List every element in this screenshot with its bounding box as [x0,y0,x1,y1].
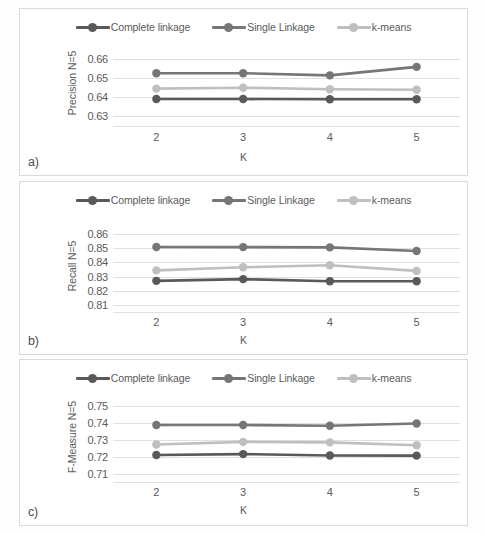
data-point-marker [412,86,420,94]
data-point-marker [412,267,420,275]
data-point-marker [239,275,247,283]
data-point-marker [239,243,247,251]
series-line [156,247,416,251]
data-point-marker [152,266,160,274]
series-line [156,265,416,271]
data-point-marker [412,441,420,449]
plot-area-fmeasure: F-Measure N=50.750.740.730.720.712345K [20,360,467,525]
data-point-marker [152,421,160,429]
panel-tag-a: a) [28,155,39,169]
data-point-marker [239,69,247,77]
data-point-marker [152,84,160,92]
plot-area-recall: Recall N=50.860.850.840.830.820.812345K [20,182,467,354]
series-layer [20,182,467,354]
data-point-marker [412,247,420,255]
data-point-marker [412,419,420,427]
series-line [156,67,416,75]
data-point-marker [152,243,160,251]
data-point-marker [326,438,334,446]
chart-panel-recall: Complete linkageSingle Linkagek-means Re… [19,181,468,355]
data-point-marker [239,421,247,429]
data-point-marker [326,261,334,269]
data-point-marker [239,95,247,103]
data-point-marker [239,83,247,91]
data-point-marker [239,438,247,446]
figure-root: Complete linkageSingle Linkagek-means Pr… [0,0,485,534]
data-point-marker [326,422,334,430]
series-layer [20,360,467,525]
data-point-marker [412,451,420,459]
data-point-marker [412,63,420,71]
data-point-marker [326,71,334,79]
panel-tag-b: b) [28,334,39,348]
data-point-marker [152,451,160,459]
data-point-marker [326,243,334,251]
chart-panel-fmeasure: Complete linkageSingle Linkagek-means F-… [19,359,468,526]
data-point-marker [152,95,160,103]
chart-panel-precision: Complete linkageSingle Linkagek-means Pr… [19,8,468,176]
series-line [156,442,416,445]
data-point-marker [412,95,420,103]
data-point-marker [152,277,160,285]
plot-area-precision: Precision N=50.660.650.640.632345K [20,9,467,175]
data-point-marker [326,451,334,459]
data-point-marker [326,277,334,285]
data-point-marker [326,95,334,103]
data-point-marker [412,277,420,285]
series-layer [20,9,467,175]
data-point-marker [152,440,160,448]
data-point-marker [152,69,160,77]
series-line [156,454,416,456]
data-point-marker [326,85,334,93]
data-point-marker [239,450,247,458]
series-line [156,279,416,281]
series-line [156,424,416,426]
data-point-marker [239,263,247,271]
series-line [156,88,416,90]
panel-tag-c: c) [28,505,38,519]
